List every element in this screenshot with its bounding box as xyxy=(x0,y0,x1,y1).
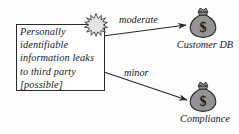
money-bag-icon-compliance[interactable]: $ xyxy=(186,81,220,113)
diagram-canvas: Personally identifiable information leak… xyxy=(0,0,239,134)
edge-label-minor: minor xyxy=(124,67,149,78)
svg-text:$: $ xyxy=(200,20,207,35)
edge-line-moderate xyxy=(103,25,186,36)
asset-label-compliance: Compliance xyxy=(172,113,238,124)
threat-box-label: Personally identifiable information leak… xyxy=(20,25,104,91)
edge-label-moderate: moderate xyxy=(119,14,158,25)
svg-text:$: $ xyxy=(200,94,207,109)
asset-label-customer-db: Customer DB xyxy=(172,39,238,50)
money-bag-icon-customer-db[interactable]: $ xyxy=(186,7,220,39)
